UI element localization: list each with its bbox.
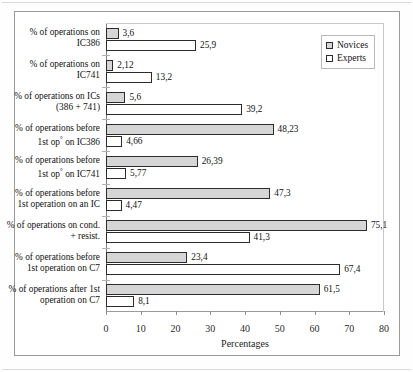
legend-label: Novices	[337, 39, 368, 52]
x-axis-title: Percentages	[106, 338, 384, 349]
bar-row: 13,2	[106, 72, 384, 83]
category-label-line: 1st op° on IC386	[0, 134, 100, 148]
bar-value-label: 47,3	[274, 187, 290, 199]
chart-legend: NovicesExperts	[321, 35, 375, 69]
bar-value-label: 75,1	[371, 219, 387, 231]
bar-group: % of operations on cond.+ resist.75,141,…	[106, 216, 384, 248]
category-label: % of operations onIC386	[0, 27, 100, 49]
x-tick-label-70: 70	[344, 323, 354, 334]
bar-novices	[106, 284, 320, 295]
category-label: % of operations onIC741	[0, 59, 100, 81]
x-tick-label-0: 0	[104, 323, 109, 334]
x-tick-label-40: 40	[240, 323, 250, 334]
category-label: % of operations on cond.+ resist.	[0, 220, 100, 242]
legend-item-experts: Experts	[326, 52, 368, 65]
bar-row: 48,23	[106, 124, 384, 135]
y-tick	[102, 216, 110, 217]
bar-row: 5,6	[106, 92, 384, 103]
bar-row: 47,3	[106, 188, 384, 199]
bar-novices	[106, 156, 198, 167]
bar-group: % of operations before1st op° on IC38648…	[106, 119, 384, 151]
bar-row: 8,1	[106, 296, 384, 307]
scanned-page: % of operations onIC3863,625,9% of opera…	[0, 0, 413, 372]
x-tick-label-20: 20	[171, 323, 181, 334]
bar-experts	[106, 264, 340, 275]
category-label: % of operations before1st operation on C…	[0, 252, 100, 274]
bar-experts	[106, 40, 196, 51]
x-tick-label-60: 60	[310, 323, 320, 334]
category-label: % of operations on ICs(386 + 741)	[0, 91, 100, 113]
category-label-line: % of operations on	[0, 27, 100, 38]
y-tick	[102, 87, 110, 88]
category-label-line: % of operations before	[0, 252, 100, 263]
bar-value-label: 26,39	[202, 155, 223, 167]
x-tick-20	[176, 311, 177, 315]
bar-group: % of operations before1st operation on C…	[106, 248, 384, 280]
bar-group: % of operations after 1stoperation on C7…	[106, 280, 384, 312]
bar-row: 75,1	[106, 220, 384, 231]
bar-novices	[106, 124, 274, 135]
category-label-line: % of operations on ICs	[0, 91, 100, 102]
category-label-line: % of operations before	[0, 188, 100, 199]
legend-item-novices: Novices	[326, 39, 368, 52]
bar-value-label: 5,6	[129, 91, 141, 103]
category-label-line: (386 + 741)	[0, 102, 100, 113]
y-tick	[102, 119, 110, 120]
bar-novices	[106, 252, 187, 263]
x-tick-10	[141, 311, 142, 315]
bar-row: 67,4	[106, 264, 384, 275]
legend-swatch-icon	[326, 55, 333, 62]
x-tick-30	[210, 311, 211, 315]
category-label-line: 1st op° on IC741	[0, 166, 100, 180]
bar-experts	[106, 72, 152, 83]
bar-experts	[106, 232, 250, 243]
bar-value-label: 61,5	[324, 283, 340, 295]
bar-row: 4,47	[106, 200, 384, 211]
x-tick-80	[384, 311, 385, 315]
category-label-line: 1st operation on C7	[0, 263, 100, 274]
bar-value-label: 39,2	[246, 103, 262, 115]
page-edge-top	[2, 2, 411, 3]
x-tick-label-30: 30	[205, 323, 215, 334]
bar-experts	[106, 200, 122, 211]
bar-row: 61,5	[106, 284, 384, 295]
bar-row: 4,66	[106, 136, 384, 147]
category-label-line: + resist.	[0, 231, 100, 242]
bar-value-label: 48,23	[278, 123, 299, 135]
category-label: % of operations before1st op° on IC386	[0, 123, 100, 148]
bar-novices	[106, 92, 125, 103]
y-tick	[102, 55, 110, 56]
category-label-line: IC741	[0, 70, 100, 81]
bar-experts	[106, 136, 122, 147]
y-tick	[102, 248, 110, 249]
category-label: % of operations before1st op° on IC741	[0, 155, 100, 180]
bar-novices	[106, 220, 367, 231]
bar-value-label: 4,47	[126, 199, 142, 211]
chart-frame: % of operations onIC3863,625,9% of opera…	[14, 11, 400, 356]
bar-value-label: 2,12	[117, 59, 133, 71]
x-tick-0	[106, 311, 107, 315]
bar-value-label: 25,9	[200, 39, 216, 51]
bar-value-label: 3,6	[123, 27, 135, 39]
x-tick-50	[280, 311, 281, 315]
bar-novices	[106, 28, 119, 39]
category-label-line: % of operations before	[0, 155, 100, 166]
category-label: % of operations after 1stoperation on C7	[0, 284, 100, 306]
bar-value-label: 41,3	[254, 231, 270, 243]
x-tick-60	[315, 311, 316, 315]
bar-value-label: 13,2	[156, 71, 172, 83]
category-label-line: operation on C7	[0, 295, 100, 306]
category-label: % of operations before1st operation on a…	[0, 188, 100, 210]
x-tick-label-50: 50	[275, 323, 285, 334]
bar-value-label: 23,4	[191, 251, 207, 263]
y-tick	[102, 280, 110, 281]
y-tick	[102, 184, 110, 185]
legend-label: Experts	[337, 52, 366, 65]
bar-value-label: 4,66	[126, 135, 142, 147]
category-label-line: 1st operation on an IC	[0, 199, 100, 210]
bar-value-label: 8,1	[138, 295, 150, 307]
degree-superscript: °	[60, 167, 63, 175]
x-tick-label-80: 80	[379, 323, 389, 334]
bar-row: 41,3	[106, 232, 384, 243]
bar-group: % of operations before1st operation on a…	[106, 184, 384, 216]
